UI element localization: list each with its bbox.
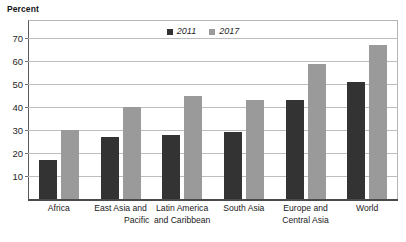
chart-axis-title: Percent: [7, 4, 39, 14]
category-label-line1: Latin America: [156, 203, 208, 213]
y-tick-label-60: 60: [0, 56, 23, 67]
bar-2011: [224, 132, 242, 199]
category-label: East Asia andPacific: [86, 203, 156, 226]
bar-group: [162, 20, 202, 199]
bar-2011: [101, 137, 119, 199]
bar-2017: [308, 64, 326, 199]
x-axis-line: [28, 199, 398, 201]
y-tick-label-40: 40: [0, 102, 23, 113]
bar-group: [347, 20, 387, 199]
bar-2017: [369, 45, 387, 199]
bar-group: [39, 20, 79, 199]
category-label: Africa: [24, 203, 94, 215]
category-label: South Asia: [209, 203, 279, 215]
bar-group: [286, 20, 326, 199]
bar-2017: [123, 107, 141, 199]
y-tick-label-20: 20: [0, 148, 23, 159]
category-label-line1: Africa: [48, 203, 70, 213]
bar-group-container: [28, 20, 398, 199]
category-label-line1: South Asia: [223, 203, 264, 213]
bar-2011: [162, 135, 180, 199]
category-label: Latin Americaand Caribbean: [147, 203, 217, 226]
bar-2017: [246, 100, 264, 199]
category-label-line2: and Caribbean: [147, 215, 217, 227]
category-label: Europe andCentral Asia: [271, 203, 341, 226]
percent-bar-chart: Percent 10203040506070 2011 2017 AfricaE…: [0, 0, 406, 242]
bar-2011: [347, 82, 365, 199]
bar-group: [224, 20, 264, 199]
bar-2017: [184, 96, 202, 199]
category-label-line1: East Asia and: [94, 203, 147, 213]
y-tick-label-70: 70: [0, 33, 23, 44]
bar-group: [101, 20, 141, 199]
category-label-line2: Central Asia: [271, 215, 341, 227]
y-tick-label-10: 10: [0, 171, 23, 182]
y-tick-label-30: 30: [0, 125, 23, 136]
y-tick-label-50: 50: [0, 79, 23, 90]
category-label-line2: Pacific: [86, 215, 156, 227]
bar-2017: [61, 130, 79, 199]
category-label: World: [332, 203, 402, 215]
category-label-line1: World: [356, 203, 378, 213]
category-label-line1: Europe and: [283, 203, 327, 213]
bar-2011: [39, 160, 57, 199]
bar-2011: [286, 100, 304, 199]
